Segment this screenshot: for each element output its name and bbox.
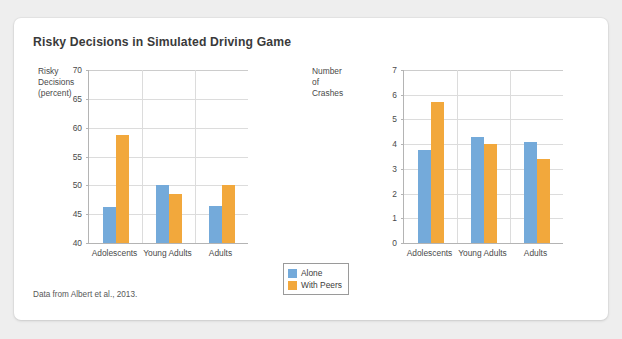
x-axis-tick-label: Adolescents <box>407 248 453 258</box>
y-axis-tickmark <box>86 157 89 158</box>
x-axis-tick-label: Adolescents <box>92 248 138 258</box>
legend-item-alone: Alone <box>288 267 342 279</box>
gridline <box>89 70 248 71</box>
category-separator <box>457 70 458 243</box>
y-axis-tick-label: 5 <box>375 114 397 124</box>
bar-alone <box>418 150 431 243</box>
x-axis-tick-label: Young Adults <box>458 248 507 258</box>
gridline <box>89 128 248 129</box>
y-axis-tick-label: 4 <box>375 139 397 149</box>
y-axis-tickmark <box>86 70 89 71</box>
y-axis-tickmark <box>401 95 404 96</box>
category-separator <box>195 70 196 243</box>
y-axis-tickmark <box>86 243 89 244</box>
y-axis-tickmark <box>401 194 404 195</box>
bar-with-peers <box>431 102 444 243</box>
y-axis-tickmark <box>401 243 404 244</box>
y-axis-tick-label: 55 <box>60 152 82 162</box>
bar-alone <box>103 207 116 243</box>
y-axis-tick-label: 3 <box>375 164 397 174</box>
y-axis-tickmark <box>86 185 89 186</box>
legend-swatch-alone-icon <box>288 269 297 278</box>
y-axis-tick-label: 65 <box>60 94 82 104</box>
legend-swatch-with-peers-icon <box>288 281 297 290</box>
y-axis-tick-label: 70 <box>60 65 82 75</box>
source-note: Data from Albert et al., 2013. <box>33 290 137 299</box>
y-axis-tick-label: 7 <box>375 65 397 75</box>
y-axis-tick-label: 60 <box>60 123 82 133</box>
bar-alone <box>471 137 484 243</box>
figure-card: Risky Decisions in Simulated Driving Gam… <box>14 18 608 320</box>
legend-item-with-peers: With Peers <box>288 279 342 291</box>
bar-with-peers <box>537 159 550 243</box>
gridline <box>404 70 563 71</box>
y-axis-tick-label: 1 <box>375 213 397 223</box>
x-axis-tick-label: Adults <box>209 248 232 258</box>
y-axis-tick-label: 2 <box>375 189 397 199</box>
y-axis-tick-label: 45 <box>60 209 82 219</box>
bar-with-peers <box>169 194 182 243</box>
gridline <box>404 95 563 96</box>
x-axis-tick-label: Adults <box>524 248 547 258</box>
gridline <box>89 99 248 100</box>
y-axis-tickmark <box>401 169 404 170</box>
y-axis-tickmark <box>86 99 89 100</box>
y-axis-tickmark <box>86 128 89 129</box>
gridline <box>404 119 563 120</box>
y-axis-tick-label: 6 <box>375 90 397 100</box>
gridline <box>89 157 248 158</box>
y-axis-title-right: Number of Crashes <box>312 66 343 100</box>
y-axis-tickmark <box>401 70 404 71</box>
plot-area-risky-decisions <box>88 70 248 244</box>
y-axis-tick-label: 0 <box>375 238 397 248</box>
plot-area-number-of-crashes <box>403 70 563 244</box>
bar-with-peers <box>116 135 129 243</box>
bar-with-peers <box>222 185 235 243</box>
bar-alone <box>524 142 537 243</box>
y-axis-tick-label: 50 <box>60 180 82 190</box>
y-axis-tick-label: 40 <box>60 238 82 248</box>
y-axis-tickmark <box>401 119 404 120</box>
x-axis-tick-label: Young Adults <box>143 248 192 258</box>
category-separator <box>510 70 511 243</box>
legend-label-alone: Alone <box>301 268 322 278</box>
legend-label-with-peers: With Peers <box>301 280 342 290</box>
y-axis-tickmark <box>86 214 89 215</box>
bar-with-peers <box>484 144 497 243</box>
chart-legend: Alone With Peers <box>283 263 349 295</box>
y-axis-tickmark <box>401 218 404 219</box>
category-separator <box>142 70 143 243</box>
y-axis-tickmark <box>401 144 404 145</box>
figure-title: Risky Decisions in Simulated Driving Gam… <box>33 35 291 49</box>
bar-alone <box>156 185 169 243</box>
bar-alone <box>209 206 222 243</box>
